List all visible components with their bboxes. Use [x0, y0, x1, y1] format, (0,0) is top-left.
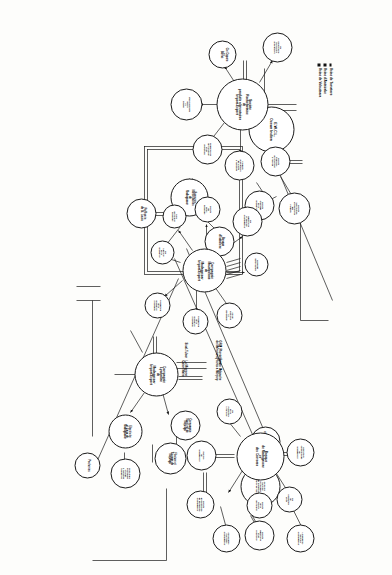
node-srpa[interactable]: SocieteRochefortaisedeproduits alimentai… — [216, 78, 268, 130]
node-label: Cie DuparcetBarrat — [218, 47, 226, 61]
node-exploitation-navigation[interactable]: Societed'exploitationde navigationa Mada… — [186, 490, 214, 518]
node-label: SucreriesMarseillaisesdeMadagascar — [184, 189, 195, 205]
legend-item: Usine de Tamatave — [328, 63, 332, 97]
node-production-grande-ile[interactable]: Productionde laGrande Ilea Majunga — [182, 308, 208, 334]
node-label: Produitsalimentairesde la cotea Tamatave — [235, 159, 244, 171]
legend-item: Usine d'Antsirabe — [322, 63, 326, 97]
node-valorisation-commerce[interactable]: SocieteValorisationet CommercedesProduit… — [278, 192, 310, 224]
node-label: CieSucrierede laGrande Ile — [158, 247, 167, 257]
node-societe-industrielle-commerce[interactable]: Societeindustrielleet decommerce — [244, 520, 274, 550]
node-label: Assurancesmaritimesa Madagascar — [223, 531, 229, 545]
node-cie-navigation-mixte[interactable]: CiedeNavigationMixte — [276, 486, 302, 512]
node-label: Conserveriesde Tamataveet deVoloutsara — [203, 142, 212, 155]
node-label: Societed'exploitationde navigationa Mada… — [196, 497, 205, 511]
node-label: CompagnieMauriciennedeMadagascarImport-E… — [196, 260, 212, 280]
node-comptoirs-commerciaux[interactable]: ComptoirscommerciauxdeMadagascar — [286, 438, 314, 466]
node-label: Compteurselectriqueset Eauxa TamataveTan… — [120, 467, 131, 478]
node-label: Banqued'Indochine — [216, 234, 221, 248]
legend-marker-icon — [329, 63, 332, 66]
node-etablissements-guyot[interactable]: EtablissementsGuyotetChanel — [170, 88, 202, 120]
node-assurances-maritimes[interactable]: Assurancesmaritimesa Madagascar — [212, 524, 240, 552]
node-label: RizeriesdeMadagascar — [198, 449, 204, 461]
node-production-majunga[interactable]: Productionde laGrande Ilea Majunga — [144, 292, 170, 318]
node-cie-industrielle-agricole[interactable]: Cieindustrielleet agricolea Madagascar — [232, 206, 262, 236]
node-label: Productionde laGrande Ilea Majunga — [153, 300, 162, 311]
node-label: ComptoirscommerciauxdeMadagascar — [296, 445, 305, 458]
node-conserveries-tamatave[interactable]: Conserveriesde Tamataveet deVoloutsara — [192, 134, 222, 164]
node-label: Pecheries — [86, 459, 89, 471]
node-betail-malgache[interactable]: Societedubetailmalgache — [194, 196, 220, 222]
legend-marker-icon — [323, 63, 326, 66]
node-label: Ste dematerielsetd'outillage — [225, 310, 234, 320]
node-label: Longchampmaritimea Madagascar — [297, 531, 303, 545]
node-cie-sucriere[interactable]: CieSucrierede laGrande Ile — [150, 240, 174, 264]
diagram-canvas: Usine de Tamatave Usine d'Antsirabe Usin… — [0, 0, 392, 575]
node-label: Societedubetailmalgache — [203, 204, 212, 214]
node-label: SocieteFrancaised'Armementa l'Ocean — [271, 155, 280, 167]
legend-usines: Usine de Tamatave Usine d'Antsirabe Usin… — [317, 63, 332, 97]
node-label: Malgachemotorisation — [254, 258, 258, 271]
node-compteurs-electriques[interactable]: Compteurselectriqueset Eauxa TamataveTan… — [110, 458, 140, 488]
node-pecheries[interactable]: Pecheries — [74, 452, 100, 478]
node-plantation-principale[interactable]: Stede laPlantationprincipale — [216, 398, 242, 424]
node-produits-alimentaires-cote[interactable]: Produitsalimentairesde la cotea Tamatave — [224, 150, 254, 180]
legend-item: Usine de Voloutsara — [317, 63, 321, 97]
node-sisal-ouest[interactable]: Sisalde l'Ouestmalgache — [162, 204, 186, 228]
node-duparc-barrat[interactable]: Cie DuparcetBarrat — [208, 40, 236, 68]
node-label: Cieindustrielleet agricolea Madagascar — [243, 214, 252, 228]
node-label: Societeindustrielleet decommerce — [255, 529, 264, 540]
node-rizeries-madagascar[interactable]: RizeriesdeMadagascar — [186, 440, 216, 470]
node-label: Sisalde l'Ouestmalgache — [171, 211, 177, 221]
legend-marker-icon — [317, 63, 320, 66]
node-label: CompagnieLyonnaisedeMadagascarImport-Exp… — [148, 364, 164, 384]
node-conserverie-specialites[interactable]: SteConserveriespecialitesalimentaires — [262, 32, 292, 62]
node-societe-francaise-armement[interactable]: SocieteFrancaised'Armementa l'Ocean — [260, 146, 290, 176]
node-label: Filature etTissage deMajunga — [166, 451, 174, 464]
figure-stage: Usine de Tamatave Usine d'Antsirabe Usin… — [0, 0, 392, 575]
node-electricite-eaux[interactable]: Electriciteet Eaux deMadagascar — [108, 414, 142, 448]
node-longchamp-maritime[interactable]: Longchampmaritimea Madagascar — [286, 524, 314, 552]
node-malgache-motorisation[interactable]: Malgachemotorisation — [244, 252, 268, 276]
node-materiels-outillage[interactable]: Ste dematerielsetd'outillage — [216, 302, 242, 328]
node-label: Productionde laGrande Ilea Majunga — [191, 316, 200, 327]
node-label: SocieteRochefortaisedeproduits alimentai… — [234, 88, 250, 119]
node-label: SocieteValorisationet CommercedesProduit… — [289, 201, 300, 214]
node-label: Raffineriede St. Louis — [138, 206, 143, 221]
node-label: CiedeNavigationMixte — [285, 494, 294, 505]
node-clm[interactable]: CompagnieLyonnaisedeMadagascarImport-Exp… — [134, 352, 178, 396]
node-label: Electriciteet Eaux deMadagascar — [121, 424, 129, 439]
node-label: Banquede Madagascaretdes Comores — [254, 445, 267, 467]
node-raffinerie-st-louis[interactable]: Raffineriede St. Louis — [126, 198, 156, 228]
node-label: Stede laPlantationprincipale — [225, 406, 234, 416]
node-label: E.W.C.L.Ocean Indien — [267, 117, 275, 140]
node-banque-madagascar-comores[interactable]: Banquede Madagascaretdes Comores — [236, 432, 284, 480]
node-cie-maritime-majunga[interactable]: CompagnieMaritime deMajunga — [170, 410, 200, 440]
node-filature-tissage-majunga[interactable]: Filature etTissage deMajunga — [154, 442, 186, 474]
legend-mignone: La MignoneCoton Mahe — [180, 360, 186, 376]
legend-ferme: Ferme MalgachePlants a Manjary — [214, 358, 220, 380]
legend-sisal: Sisal-Tulear — [183, 342, 186, 358]
node-label: SteConserveriespecialitesalimentaires — [273, 41, 282, 53]
node-label: Societede laRizierede l'Ouest — [255, 500, 264, 510]
node-cmm[interactable]: CompagnieMauriciennedeMadagascarImport-E… — [182, 248, 226, 292]
node-label: EtablissementsGuyotetChanel — [182, 96, 191, 111]
node-label: CompagnieMaritime deMajunga — [181, 418, 189, 432]
node-riziere-ouest[interactable]: Societede laRizierede l'Ouest — [246, 492, 272, 518]
